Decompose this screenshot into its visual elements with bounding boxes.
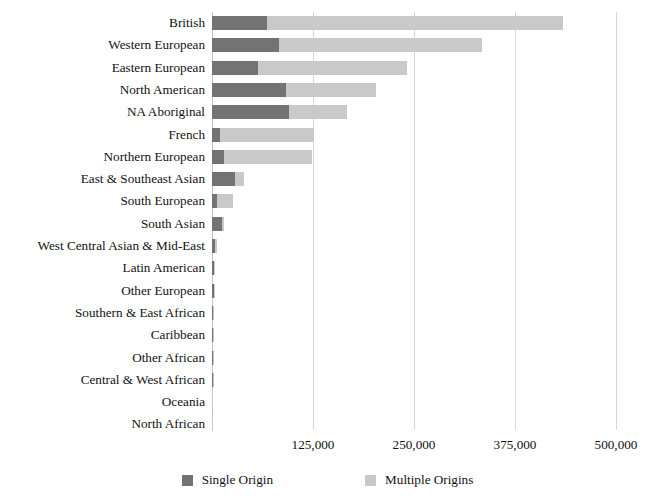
bar-row [212, 34, 616, 56]
category-label: Western European [0, 37, 205, 52]
bar-segment-multiple-origins[interactable] [213, 328, 214, 342]
stacked-bar[interactable] [212, 61, 407, 75]
stacked-bar[interactable] [212, 351, 214, 365]
bar-row [212, 347, 616, 369]
category-label: Caribbean [0, 327, 205, 342]
bar-segment-multiple-origins[interactable] [222, 217, 223, 231]
bar-segment-single-origin[interactable] [212, 150, 224, 164]
bar-segment-multiple-origins[interactable] [224, 150, 312, 164]
bar-segment-multiple-origins[interactable] [215, 239, 217, 253]
bar-row [212, 190, 616, 212]
bar-segment-single-origin[interactable] [212, 38, 279, 52]
bar-row [212, 101, 616, 123]
bar-row [212, 324, 616, 346]
bar-row [212, 57, 616, 79]
bar-segment-multiple-origins[interactable] [213, 306, 214, 320]
legend-swatch-single-origin [182, 475, 193, 486]
category-label: Other European [0, 283, 205, 298]
category-label: British [0, 15, 205, 30]
category-label: Other African [0, 350, 205, 365]
bar-row [212, 79, 616, 101]
legend-label-single-origin: Single Origin [202, 472, 273, 488]
bar-row [212, 369, 616, 391]
category-label: West Central Asian & Mid-East [0, 238, 205, 253]
stacked-bar[interactable] [212, 373, 213, 387]
bar-row [212, 302, 616, 324]
bar-segment-single-origin[interactable] [212, 128, 220, 142]
x-axis-tick-label: 250,000 [393, 437, 436, 453]
legend-item-single-origin[interactable]: Single Origin [182, 472, 273, 488]
bar-segment-multiple-origins[interactable] [214, 284, 215, 298]
stacked-bar[interactable] [212, 239, 217, 253]
stacked-bar[interactable] [212, 38, 482, 52]
bar-segment-single-origin[interactable] [212, 105, 289, 119]
bar-segment-multiple-origins[interactable] [267, 16, 563, 30]
bar-segment-multiple-origins[interactable] [289, 105, 347, 119]
stacked-bar[interactable] [212, 328, 214, 342]
stacked-bar[interactable] [212, 16, 563, 30]
bar-row [212, 413, 616, 435]
category-label: East & Southeast Asian [0, 171, 205, 186]
bar-segment-single-origin[interactable] [212, 172, 235, 186]
bar-segment-single-origin[interactable] [212, 83, 286, 97]
category-label: North African [0, 416, 205, 431]
gridline-500000 [616, 12, 617, 430]
bar-row [212, 280, 616, 302]
category-label: North American [0, 82, 205, 97]
bar-segment-multiple-origins[interactable] [217, 194, 233, 208]
bar-row [212, 257, 616, 279]
bar-row [212, 124, 616, 146]
bar-segment-single-origin[interactable] [212, 61, 258, 75]
stacked-bar[interactable] [212, 172, 244, 186]
category-label: French [0, 127, 205, 142]
bar-row [212, 146, 616, 168]
category-label: NA Aboriginal [0, 104, 205, 119]
legend-swatch-multiple-origins [365, 475, 376, 486]
x-axis-tick-label: 125,000 [292, 437, 335, 453]
bar-segment-multiple-origins[interactable] [214, 261, 215, 275]
bar-segment-multiple-origins[interactable] [258, 61, 407, 75]
bar-segment-multiple-origins[interactable] [286, 83, 376, 97]
plot-area [212, 12, 616, 430]
legend-item-multiple-origins[interactable]: Multiple Origins [365, 472, 473, 488]
bar-segment-multiple-origins[interactable] [279, 38, 482, 52]
stacked-bar[interactable] [212, 306, 214, 320]
stacked-bar[interactable] [212, 150, 312, 164]
stacked-bar[interactable] [212, 83, 376, 97]
category-label: Northern European [0, 149, 205, 164]
stacked-bar[interactable] [212, 261, 215, 275]
bar-row [212, 213, 616, 235]
category-label: Oceania [0, 394, 205, 409]
stacked-bar[interactable] [212, 194, 233, 208]
category-label: Central & West African [0, 372, 205, 387]
bar-segment-multiple-origins[interactable] [235, 172, 244, 186]
chart-legend: Single Origin Multiple Origins [0, 472, 655, 488]
bar-row [212, 12, 616, 34]
stacked-bar[interactable] [212, 284, 215, 298]
category-label: Eastern European [0, 60, 205, 75]
bar-segment-multiple-origins[interactable] [220, 128, 314, 142]
stacked-bar[interactable] [212, 128, 314, 142]
bar-row [212, 391, 616, 413]
legend-label-multiple-origins: Multiple Origins [385, 472, 473, 488]
category-label: South Asian [0, 216, 205, 231]
category-label: Southern & East African [0, 305, 205, 320]
stacked-bar[interactable] [212, 395, 213, 409]
bar-row [212, 235, 616, 257]
category-label: South European [0, 193, 205, 208]
stacked-bar[interactable] [212, 105, 347, 119]
category-label: Latin American [0, 260, 205, 275]
x-axis-tick-label: 500,000 [595, 437, 638, 453]
bar-row [212, 168, 616, 190]
bar-segment-single-origin[interactable] [212, 16, 267, 30]
x-axis-tick-label: 375,000 [494, 437, 537, 453]
stacked-bar-chart: BritishWestern EuropeanEastern EuropeanN… [0, 0, 655, 501]
bar-segment-single-origin[interactable] [212, 217, 222, 231]
stacked-bar[interactable] [212, 217, 224, 231]
